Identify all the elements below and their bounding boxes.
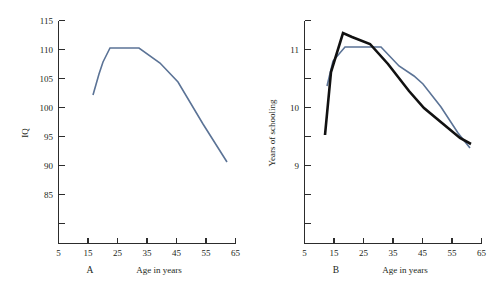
panel-b-ytick-10: 10 bbox=[290, 103, 300, 113]
panel-b-xtick-65: 65 bbox=[477, 248, 487, 258]
panel-a-xtick-5: 5 bbox=[56, 248, 61, 258]
panel-a-x-axis-title: Age in years bbox=[136, 265, 182, 275]
panel-b-xtick-25: 25 bbox=[359, 248, 369, 258]
chart-panel-b: 11 10 9 5 15 25 35 45 55 65 Years of sc bbox=[249, 0, 498, 287]
panel-b-xtick-55: 55 bbox=[448, 248, 458, 258]
chart-panel-a: 115 110 105 100 95 90 85 5 15 25 35 45 bbox=[0, 0, 249, 287]
panel-a-ytick-95: 95 bbox=[44, 132, 54, 142]
panel-a-ytick-105: 105 bbox=[40, 74, 54, 84]
panel-b-series-blue bbox=[327, 47, 470, 148]
panel-a-y-ticks bbox=[59, 21, 65, 224]
panel-a-xtick-25: 25 bbox=[113, 248, 123, 258]
panel-a-xtick-45: 45 bbox=[172, 248, 182, 258]
panel-a-ytick-110: 110 bbox=[40, 45, 54, 55]
panel-b-label: B bbox=[333, 265, 339, 275]
panel-b-xtick-35: 35 bbox=[389, 248, 399, 258]
panel-a-ytick-90: 90 bbox=[44, 161, 54, 171]
panel-b-ytick-11: 11 bbox=[290, 45, 299, 55]
panel-b-xtick-45: 45 bbox=[418, 248, 428, 258]
panel-b-x-ticks bbox=[305, 238, 482, 244]
panel-a-series-iq bbox=[93, 48, 227, 162]
panel-a-xtick-65: 65 bbox=[231, 248, 241, 258]
panel-b-x-axis-title: Age in years bbox=[382, 265, 428, 275]
panel-a-ytick-85: 85 bbox=[44, 190, 54, 200]
panel-b-xtick-5: 5 bbox=[302, 248, 307, 258]
panel-a-x-ticks bbox=[59, 238, 236, 244]
panel-a-ytick-115: 115 bbox=[40, 16, 54, 26]
panel-b-y-axis-title: Years of schooling bbox=[267, 99, 277, 167]
panel-a-xtick-55: 55 bbox=[202, 248, 212, 258]
panel-a-xtick-35: 35 bbox=[143, 248, 153, 258]
panel-a-xtick-15: 15 bbox=[84, 248, 94, 258]
panel-a-y-axis-title: IQ bbox=[20, 128, 30, 138]
panel-a-label: A bbox=[87, 265, 94, 275]
panel-b-xtick-15: 15 bbox=[330, 248, 340, 258]
panel-b-y-ticks bbox=[305, 21, 311, 224]
panel-b-ytick-9: 9 bbox=[295, 161, 300, 171]
panel-a-plot: 115 110 105 100 95 90 85 5 15 25 35 45 bbox=[0, 0, 249, 287]
panel-b-series-black bbox=[325, 33, 471, 144]
panel-a-ytick-100: 100 bbox=[40, 103, 54, 113]
figure-container: 115 110 105 100 95 90 85 5 15 25 35 45 bbox=[0, 0, 499, 287]
panel-b-plot: 11 10 9 5 15 25 35 45 55 65 Years of sc bbox=[249, 0, 498, 287]
